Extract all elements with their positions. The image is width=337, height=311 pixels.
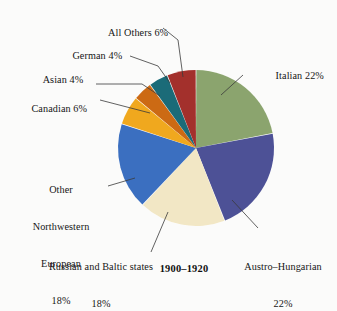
pie-slice-group	[118, 70, 274, 226]
slice-label-canadian: Canadian 6%	[12, 91, 96, 128]
slice-label-austro-hungarian-line1: Austro–Hungarian	[233, 261, 333, 273]
slice-label-russian-baltic-line2: 18%	[26, 298, 176, 310]
slice-label-german-text: German 4%	[72, 50, 122, 61]
slice-label-asian-text: Asian 4%	[43, 74, 84, 85]
slice-label-austro-hungarian-line2: 22%	[233, 298, 333, 310]
slice-label-austro-hungarian: Austro–Hungarian 22%	[233, 236, 333, 311]
slice-label-all-others-text: All Others 6%	[108, 27, 168, 38]
slice-label-italian-text: Italian 22%	[276, 70, 324, 81]
slice-label-italian: Italian 22%	[265, 58, 337, 95]
slice-label-other-nw-european-line2: Northwestern	[18, 221, 104, 233]
slice-label-canadian-text: Canadian 6%	[31, 103, 87, 114]
figure-caption: 1900–1920	[134, 263, 234, 274]
slice-label-other-nw-european-line1: Other	[18, 184, 104, 196]
